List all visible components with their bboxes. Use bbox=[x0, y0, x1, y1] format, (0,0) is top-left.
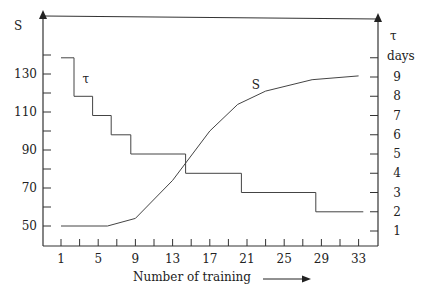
chart-frame bbox=[39, 10, 382, 246]
right-y-tick-label: 7 bbox=[393, 109, 401, 123]
x-tick-label: 29 bbox=[314, 252, 329, 266]
x-tick-label: 25 bbox=[277, 252, 292, 266]
x-tick-label: 17 bbox=[202, 252, 217, 266]
series-s-label: S bbox=[252, 78, 260, 92]
right-y-tick-label: 6 bbox=[393, 128, 401, 142]
right-y-tick-label: 8 bbox=[393, 89, 401, 103]
series-layer bbox=[61, 58, 363, 226]
x-tick-label: 33 bbox=[351, 252, 366, 266]
right-y-tick-label: 5 bbox=[393, 147, 401, 161]
left-y-tick-label: 70 bbox=[22, 181, 37, 195]
x-axis-direction-arrow-icon bbox=[263, 276, 311, 283]
left-y-tick-label: 110 bbox=[14, 105, 37, 119]
right-y-tick-label: 9 bbox=[393, 70, 401, 84]
series-s-line bbox=[61, 76, 359, 226]
x-tick-label: 21 bbox=[239, 252, 254, 266]
chart-canvas: 159131721252933507090110130123456789 S τ… bbox=[0, 0, 430, 296]
right-y-tick-label: 3 bbox=[393, 186, 401, 200]
axis-ticks bbox=[43, 55, 378, 246]
series-tau-label: τ bbox=[82, 72, 89, 86]
x-tick-label: 13 bbox=[165, 252, 180, 266]
x-tick-label: 9 bbox=[132, 252, 140, 266]
left-axis-title: S bbox=[14, 19, 22, 33]
left-axis-arrow-icon bbox=[39, 10, 47, 19]
right-y-tick-label: 1 bbox=[393, 224, 401, 238]
left-y-tick-label: 130 bbox=[14, 67, 37, 81]
x-axis-title: Number of training bbox=[133, 270, 251, 284]
x-tick-label: 5 bbox=[94, 252, 102, 266]
left-y-tick-label: 50 bbox=[22, 219, 37, 233]
tick-labels: 159131721252933507090110130123456789 bbox=[14, 67, 401, 266]
right-y-tick-label: 2 bbox=[393, 205, 401, 219]
right-axis-symbol: τ bbox=[390, 29, 397, 43]
top-border bbox=[44, 16, 379, 19]
right-axis-arrow-icon bbox=[374, 13, 382, 22]
series-tau-line bbox=[61, 58, 363, 212]
right-y-tick-label: 4 bbox=[393, 166, 401, 180]
x-tick-label: 1 bbox=[57, 252, 65, 266]
left-y-tick-label: 90 bbox=[22, 143, 37, 157]
right-axis-unit: days bbox=[387, 49, 415, 63]
